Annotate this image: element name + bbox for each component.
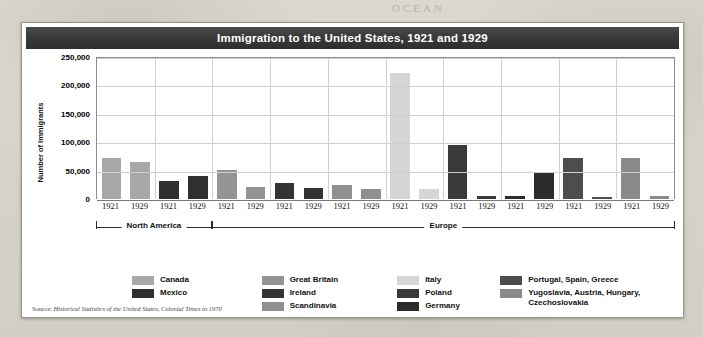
bar-slot [357, 58, 386, 199]
legend-item[interactable]: Portugal, Spain, Greece [500, 275, 677, 285]
category-separator [270, 58, 271, 199]
legend-label: Mexico [160, 288, 187, 298]
legend-item[interactable]: Germany [397, 301, 500, 311]
legend-label: Great Britain [290, 275, 338, 285]
legend-label: Scandinavia [290, 301, 337, 311]
category-separator [386, 58, 387, 199]
bar[interactable] [102, 158, 122, 199]
bar-slot [328, 58, 357, 199]
y-axis-tick-label: 200,000 [61, 81, 90, 90]
legend-column: Great BritainIrelandScandinavia [262, 275, 398, 315]
legend-item[interactable]: Poland [397, 288, 500, 298]
legend-swatch-icon [397, 289, 419, 298]
bar[interactable] [505, 196, 525, 199]
legend-swatch-icon [397, 276, 419, 285]
legend-label: Ireland [290, 288, 316, 298]
x-axis-tick-label: 1921 [212, 201, 241, 215]
x-axis-tick-label: 1921 [154, 201, 183, 215]
x-axis-tick-label: 1929 [414, 201, 443, 215]
x-axis-tick-label: 1929 [357, 201, 386, 215]
legend-item[interactable]: Mexico [132, 288, 262, 298]
legend-column: ItalyPolandGermany [397, 275, 500, 315]
legend-label: Germany [425, 301, 460, 311]
legend-item[interactable]: Scandinavia [262, 301, 398, 311]
x-axis-tick-label: 1921 [386, 201, 415, 215]
region-group-labels: North AmericaEurope [96, 219, 675, 241]
bar[interactable] [304, 188, 324, 199]
bar-slot [126, 58, 155, 199]
x-axis-tick-label: 1929 [588, 201, 617, 215]
x-axis-tick-label: 1921 [501, 201, 530, 215]
y-axis-tick-label: 250,000 [61, 53, 90, 62]
x-axis-tick-label: 1921 [96, 201, 125, 215]
legend-item[interactable]: Great Britain [262, 275, 398, 285]
bar[interactable] [621, 158, 641, 199]
x-axis-tick-label: 1929 [183, 201, 212, 215]
region-label: Europe [425, 221, 463, 230]
bar-slot [587, 58, 616, 199]
chart-area: Number of Immigrants 050,000100,000150,0… [28, 53, 677, 251]
chart-title-bar: Immigration to the United States, 1921 a… [26, 27, 679, 49]
bar[interactable] [130, 162, 150, 199]
bar[interactable] [419, 189, 439, 199]
legend-label: Poland [425, 288, 452, 298]
x-axis-tick-label: 1929 [646, 201, 675, 215]
bar[interactable] [332, 185, 352, 199]
bar[interactable] [534, 173, 554, 199]
legend-item[interactable]: Yugoslavia, Austria, Hungary, Czechoslov… [500, 288, 677, 308]
bar-slot [414, 58, 443, 199]
y-axis-tick-label: 0 [86, 195, 90, 204]
category-separator [616, 58, 617, 199]
bar[interactable] [275, 183, 295, 199]
bar-slot [559, 58, 588, 199]
bar[interactable] [188, 176, 208, 199]
bar[interactable] [563, 158, 583, 199]
category-separator [212, 58, 213, 199]
category-separator [328, 58, 329, 199]
bar[interactable] [217, 170, 237, 199]
source-text: Historical Statistics of the United Stat… [53, 305, 221, 312]
legend-label: Yugoslavia, Austria, Hungary, Czechoslov… [528, 288, 677, 308]
legend-item[interactable]: Italy [397, 275, 500, 285]
legend-item[interactable]: Canada [132, 275, 262, 285]
bar[interactable] [390, 73, 410, 199]
region-label: North America [121, 221, 186, 230]
x-axis-tick-label: 1929 [530, 201, 559, 215]
bar[interactable] [361, 189, 381, 199]
bar-slot [97, 58, 126, 199]
legend-swatch-icon [262, 302, 284, 311]
bracket-cap-left [96, 221, 97, 229]
category-separator [559, 58, 560, 199]
bar[interactable] [246, 187, 266, 199]
bracket-cap-left [212, 221, 213, 229]
bar-slot [212, 58, 241, 199]
legend-swatch-icon [262, 276, 284, 285]
bar-slot [241, 58, 270, 199]
y-axis-ticks: 050,000100,000150,000200,000250,000 [42, 53, 94, 199]
x-axis-ticks: 1921192919211929192119291921192919211929… [96, 201, 675, 215]
x-axis-tick-label: 1929 [472, 201, 501, 215]
bar[interactable] [592, 197, 612, 199]
x-axis-tick-label: 1921 [559, 201, 588, 215]
y-axis-tick-label: 100,000 [61, 138, 90, 147]
bar[interactable] [159, 181, 179, 199]
x-axis-tick-label: 1921 [617, 201, 646, 215]
bar-slot [501, 58, 530, 199]
bar-slot [472, 58, 501, 199]
bar-slot [299, 58, 328, 199]
region-bracket: North America [96, 219, 212, 237]
source-prefix: Source: [32, 305, 53, 312]
legend-item[interactable]: Ireland [262, 288, 398, 298]
category-separator [443, 58, 444, 199]
legend-swatch-icon [500, 289, 522, 298]
bar-slot [645, 58, 674, 199]
background-label-ocean: OCEAN [392, 2, 445, 14]
plot-area [96, 57, 675, 199]
bar-slot [155, 58, 184, 199]
bar-slot [270, 58, 299, 199]
bar[interactable] [477, 196, 497, 199]
bar[interactable] [650, 196, 670, 199]
legend-label: Portugal, Spain, Greece [528, 275, 618, 285]
chart-panel: Immigration to the United States, 1921 a… [21, 22, 684, 318]
source-note: Source: Historical Statistics of the Uni… [32, 305, 222, 312]
